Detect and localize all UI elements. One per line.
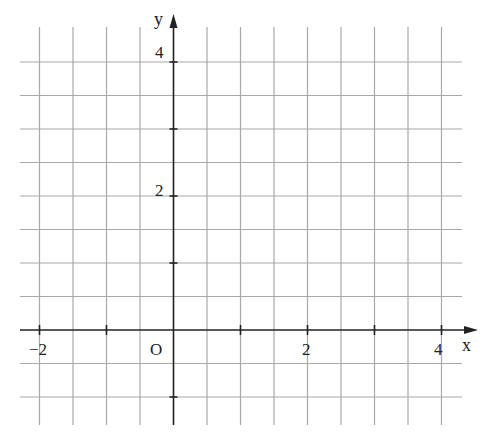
x-tick-label-4: 4: [434, 341, 443, 358]
y-tick-label-4: 4: [155, 44, 164, 61]
grid-lines: [20, 27, 462, 425]
origin-label: O: [150, 341, 162, 358]
coordinate-plane: [0, 0, 483, 441]
x-tick-label-2: 2: [302, 341, 311, 358]
x-axis-label: x: [462, 336, 471, 354]
y-tick-label-2: 2: [155, 182, 164, 199]
x-tick-label-neg2: −2: [29, 341, 47, 358]
y-axis-label: y: [154, 10, 163, 28]
